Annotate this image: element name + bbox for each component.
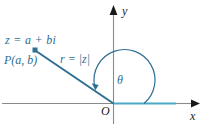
label-y-axis: y bbox=[122, 5, 127, 17]
label-theta: θ bbox=[117, 74, 123, 86]
x-axis-arrowhead-icon bbox=[191, 100, 200, 108]
label-point-p: P(a, b) bbox=[4, 54, 37, 66]
label-origin: O bbox=[101, 105, 110, 117]
label-x-axis: x bbox=[190, 110, 195, 122]
label-complex-form: z = a + bi bbox=[5, 34, 56, 46]
point-p-marker bbox=[33, 48, 38, 53]
complex-plane-figure: z = a + bi P(a, b) r = |z| θ y x O bbox=[0, 0, 203, 126]
y-axis-arrowhead-icon bbox=[110, 5, 118, 15]
label-modulus: r = |z| bbox=[60, 53, 90, 65]
